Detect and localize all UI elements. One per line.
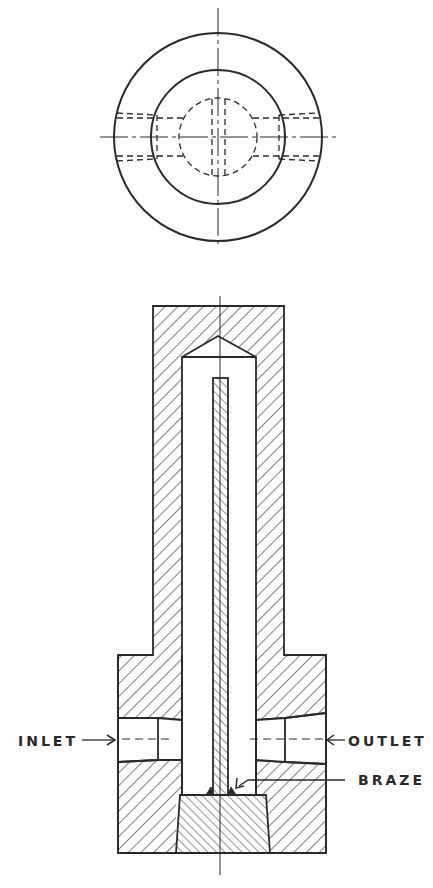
inlet-label: INLET xyxy=(18,733,78,749)
braze-right xyxy=(228,787,236,795)
outlet-label: OUTLET xyxy=(348,733,427,749)
technical-drawing: INLET OUTLET BRAZE xyxy=(0,0,433,888)
flange-right xyxy=(256,655,326,720)
braze-label: BRAZE xyxy=(358,772,425,788)
top-view xyxy=(100,8,340,247)
flange-left-lower xyxy=(118,760,182,853)
body-left-wall xyxy=(153,306,218,655)
flange-left xyxy=(118,655,182,720)
section-view xyxy=(118,296,330,875)
plug xyxy=(176,795,270,853)
